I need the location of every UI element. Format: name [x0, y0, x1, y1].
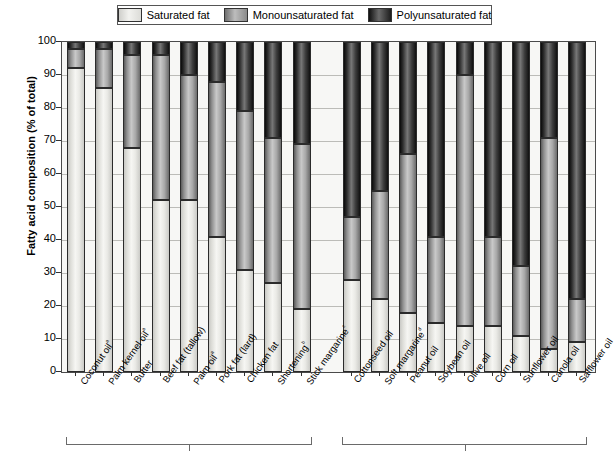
- group-bracket: [342, 437, 588, 445]
- x-axis-label: Palm oilᵃ: [189, 349, 221, 386]
- x-axis-tick: [160, 372, 161, 376]
- x-axis-tick: [379, 372, 380, 376]
- x-axis-label: Safflower oil: [577, 337, 615, 385]
- x-axis-tick: [75, 372, 76, 376]
- x-axis-label: Corn oil: [493, 352, 520, 385]
- x-axis-label: Stick margarineᶜ: [302, 323, 352, 387]
- x-axis-tick: [301, 372, 302, 376]
- x-axis-tick: [464, 372, 465, 376]
- x-axis-label: Olive oil: [465, 351, 493, 384]
- x-axis-tick: [188, 372, 189, 376]
- group-bracket: [66, 437, 312, 445]
- x-axis-tick: [272, 372, 273, 376]
- bracket-tick: [465, 445, 466, 451]
- x-axis-tick: [103, 372, 104, 376]
- bracket-tick: [189, 445, 190, 451]
- x-axis-label: Butter: [132, 358, 155, 385]
